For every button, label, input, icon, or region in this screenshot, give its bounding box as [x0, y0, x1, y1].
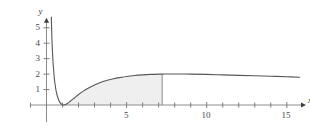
y-tick-label-5: 5	[36, 23, 41, 32]
y-tick-label-2: 2	[36, 70, 41, 79]
plot-canvas	[0, 0, 310, 129]
y-tick-label-1: 1	[36, 85, 41, 94]
x-tick-label-10: 10	[202, 111, 211, 120]
y-tick-label-4: 4	[36, 39, 41, 48]
x-axis-label: x	[308, 96, 310, 105]
y-axis-label: y	[39, 7, 43, 16]
x-axis-arrowhead	[301, 102, 306, 107]
x-tick-label-15: 15	[282, 111, 291, 120]
y-axis-arrowhead	[44, 18, 49, 23]
chart-figure: 5101512345 y x	[0, 0, 310, 129]
x-tick-label-5: 5	[124, 111, 129, 120]
y-tick-label-3: 3	[36, 54, 41, 63]
